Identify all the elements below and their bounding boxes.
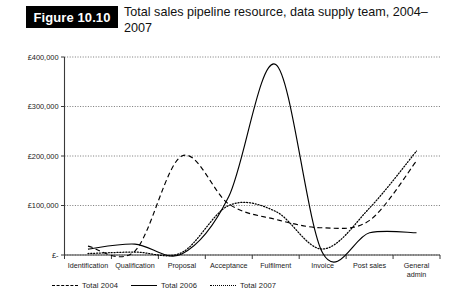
- x-axis-tick-label: Acceptance: [210, 261, 248, 270]
- x-axis-tick-label: Proposal: [168, 261, 197, 270]
- series-line-total-2006: [88, 64, 417, 262]
- legend-item[interactable]: Total 2007: [210, 281, 276, 290]
- x-axis-tick-label: Identification: [68, 261, 108, 270]
- axes-group: [61, 57, 440, 259]
- y-axis-tick-label: £-: [52, 251, 59, 260]
- figure-container: Figure 10.10 Total sales pipeline resour…: [0, 0, 449, 306]
- legend-line-swatch-solid: [131, 282, 157, 289]
- x-axis-tick-label: Invoice: [311, 261, 334, 270]
- line-chart-svg: £-£100,000£200,000£300,000£400,000 Ident…: [0, 0, 449, 306]
- legend-item[interactable]: Total 2006: [131, 281, 197, 290]
- x-axis-tick-label: Qualification: [115, 261, 155, 270]
- gridlines-group: [65, 57, 441, 255]
- legend-line-swatch-dashed: [52, 282, 78, 289]
- y-axis-tick-label: £400,000: [28, 53, 59, 62]
- chart-plot-area: £-£100,000£200,000£300,000£400,000 Ident…: [0, 0, 449, 306]
- legend-item[interactable]: Total 2004: [52, 281, 118, 290]
- y-axis-tick-labels: £-£100,000£200,000£300,000£400,000: [28, 53, 59, 260]
- legend-item-label: Total 2004: [82, 281, 118, 290]
- x-axis-tick-labels: IdentificationQualificationProposalAccep…: [68, 261, 430, 279]
- x-axis-tick-label: General: [404, 261, 430, 270]
- y-axis-tick-label: £100,000: [28, 201, 59, 210]
- y-axis-tick-label: £300,000: [28, 102, 59, 111]
- chart-legend: Total 2004Total 2006Total 2007: [52, 281, 276, 290]
- x-axis-tick-label: admin: [407, 270, 427, 279]
- legend-item-label: Total 2007: [240, 281, 276, 290]
- legend-item-label: Total 2006: [161, 281, 197, 290]
- legend-line-swatch-dotted: [210, 282, 236, 289]
- y-axis-tick-label: £200,000: [28, 152, 59, 161]
- x-axis-tick-label: Fulfilment: [260, 261, 291, 270]
- x-axis-tick-label: Post sales: [353, 261, 387, 270]
- series-line-total-2007: [88, 151, 417, 256]
- data-series-group: [88, 64, 417, 262]
- series-line-total-2004: [88, 155, 417, 257]
